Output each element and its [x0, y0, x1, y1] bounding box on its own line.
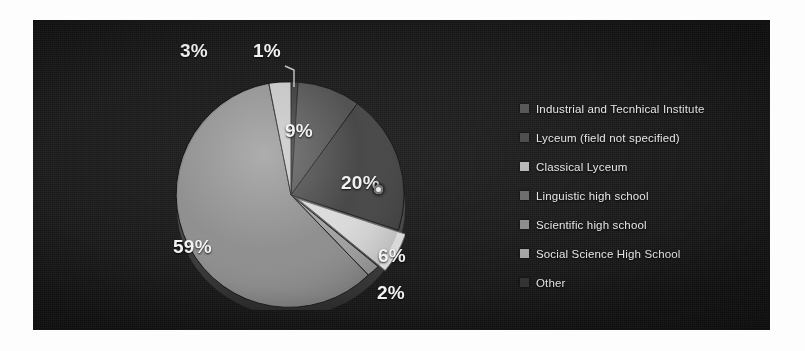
pie-label-scientific: 59% [173, 236, 212, 258]
pie-label-industrial: 9% [285, 120, 313, 142]
legend-label: Industrial and Tecnhical Institute [536, 103, 705, 115]
pie-label-classical: 6% [378, 245, 406, 267]
legend-label: Classical Lyceum [536, 161, 627, 173]
legend-label: Social Science High School [536, 248, 681, 260]
legend-swatch-icon [520, 191, 529, 200]
legend-label: Linguistic high school [536, 190, 649, 202]
legend-swatch-icon [520, 104, 529, 113]
legend-swatch-icon [520, 133, 529, 142]
legend-item-lyceum[interactable]: Lyceum (field not specified) [520, 123, 770, 152]
legend-item-industrial[interactable]: Industrial and Tecnhical Institute [520, 94, 770, 123]
legend-swatch-icon [520, 249, 529, 258]
chart-legend: Industrial and Tecnhical Institute Lyceu… [520, 94, 770, 297]
pie-chart: 3% 1% 9% 20% 6% 2% 59% [145, 42, 405, 310]
legend-swatch-icon [520, 220, 529, 229]
legend-item-social-science[interactable]: Social Science High School [520, 239, 770, 268]
pie-gloss-overlay [178, 82, 404, 308]
pie-label-linguistic: 2% [377, 282, 405, 304]
legend-label: Other [536, 277, 566, 289]
legend-item-other[interactable]: Other [520, 268, 770, 297]
pie-label-other: 1% [253, 40, 281, 62]
legend-label: Scientific high school [536, 219, 647, 231]
legend-swatch-icon [520, 162, 529, 171]
pointer-dot-artifact [374, 185, 383, 194]
pie-label-social-science: 3% [180, 40, 208, 62]
legend-item-scientific[interactable]: Scientific high school [520, 210, 770, 239]
legend-swatch-icon [520, 278, 529, 287]
legend-item-linguistic[interactable]: Linguistic high school [520, 181, 770, 210]
legend-item-classical[interactable]: Classical Lyceum [520, 152, 770, 181]
presentation-slide-panel: 3% 1% 9% 20% 6% 2% 59% Industrial and Te… [33, 20, 770, 330]
slide-photo: 3% 1% 9% 20% 6% 2% 59% Industrial and Te… [0, 0, 805, 351]
legend-label: Lyceum (field not specified) [536, 132, 680, 144]
